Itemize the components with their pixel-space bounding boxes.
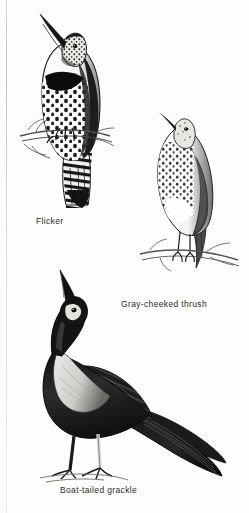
scan-gutter-line bbox=[6, 0, 7, 513]
caption-boat-tailed-grackle: Boat-tailed grackle bbox=[60, 485, 137, 495]
grackle-eye bbox=[71, 308, 76, 313]
grackle-legs bbox=[70, 434, 100, 470]
figure-gray-cheeked-thrush: Gray-cheeked thrush bbox=[140, 112, 240, 277]
flicker-bill bbox=[40, 14, 66, 48]
thrush-bill bbox=[159, 112, 176, 131]
thrush-eye bbox=[184, 127, 188, 131]
grackle-feet bbox=[52, 468, 112, 479]
flicker-eye bbox=[73, 44, 77, 48]
caption-flicker: Flicker bbox=[36, 216, 63, 226]
figure-flicker: Flicker bbox=[18, 8, 128, 213]
figure-boat-tailed-grackle: Boat-tailed grackle bbox=[22, 288, 237, 488]
illustration-plate: Flicker bbox=[0, 0, 249, 513]
